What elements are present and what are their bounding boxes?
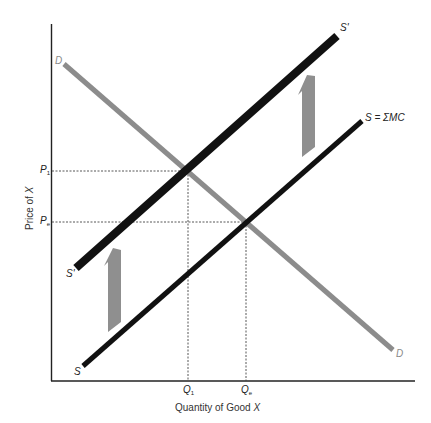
supply-curve: [83, 121, 362, 366]
pe-tick-label: Pe: [40, 215, 50, 227]
shifted-supply-curve: [76, 36, 337, 268]
pe-main: P: [40, 215, 47, 226]
shifted-supply-start-label: S': [66, 268, 75, 279]
x-axis-title: Quantity of Good X: [175, 402, 260, 413]
qe-main: Q: [241, 384, 249, 395]
x-axis-title-text: Quantity of Good: [175, 402, 253, 413]
shift-up-arrow-upper: [298, 75, 315, 157]
p1-sub: 1: [47, 170, 50, 176]
y-axis-title-var: X: [24, 187, 35, 194]
pe-sub: e: [47, 221, 50, 227]
q1-sub: 1: [191, 390, 194, 396]
supply-end-label: S = ΣMC: [365, 112, 405, 123]
demand-end-label: D: [396, 348, 403, 359]
demand-start-label: D: [55, 55, 62, 66]
supply-demand-chart: [0, 0, 431, 423]
qe-sub: e: [249, 390, 252, 396]
qe-tick-label: Qe: [241, 384, 252, 396]
p1-tick-label: P1: [40, 164, 50, 176]
q1-main: Q: [183, 384, 191, 395]
y-axis-title: Price of X: [24, 187, 35, 230]
y-axis-title-text: Price of: [24, 193, 35, 230]
x-axis-title-var: X: [253, 402, 260, 413]
supply-start-label: S: [74, 366, 81, 377]
p1-main: P: [40, 164, 47, 175]
shifted-supply-end-label: S': [340, 22, 349, 33]
shift-up-arrow-lower: [104, 248, 121, 332]
q1-tick-label: Q1: [183, 384, 194, 396]
